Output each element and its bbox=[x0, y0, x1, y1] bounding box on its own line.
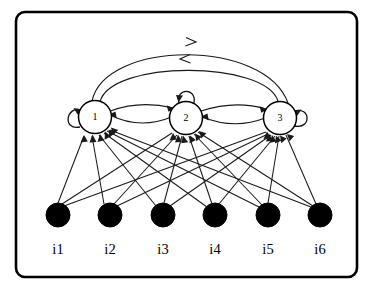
network-diagram: 1 2 3 i1 i2 i3 i4 i5 bbox=[0, 0, 371, 290]
input-label-i6: i6 bbox=[314, 241, 325, 257]
diagram-frame bbox=[16, 12, 357, 277]
input-unit-i2[interactable] bbox=[98, 203, 122, 227]
hidden-unit-2[interactable]: 2 bbox=[170, 102, 203, 135]
input-label-i4: i4 bbox=[209, 241, 221, 257]
hidden-unit-1-label: 1 bbox=[93, 111, 98, 122]
hidden-unit-2-label: 2 bbox=[184, 112, 189, 123]
hidden-unit-3-label: 3 bbox=[278, 112, 283, 123]
input-unit-i4[interactable] bbox=[203, 203, 227, 227]
input-unit-i5[interactable] bbox=[256, 203, 280, 227]
input-label-i3: i3 bbox=[157, 241, 168, 257]
hidden-unit-1[interactable]: 1 bbox=[79, 101, 112, 134]
input-label-i5: i5 bbox=[262, 241, 273, 257]
input-unit-i6[interactable] bbox=[308, 203, 332, 227]
hidden-unit-3[interactable]: 3 bbox=[264, 102, 297, 135]
input-label-i2: i2 bbox=[104, 241, 115, 257]
input-unit-i1[interactable] bbox=[46, 203, 70, 227]
input-unit-i3[interactable] bbox=[151, 203, 175, 227]
input-label-i1: i1 bbox=[52, 241, 63, 257]
diagram-canvas: 1 2 3 i1 i2 i3 i4 i5 bbox=[0, 0, 371, 290]
